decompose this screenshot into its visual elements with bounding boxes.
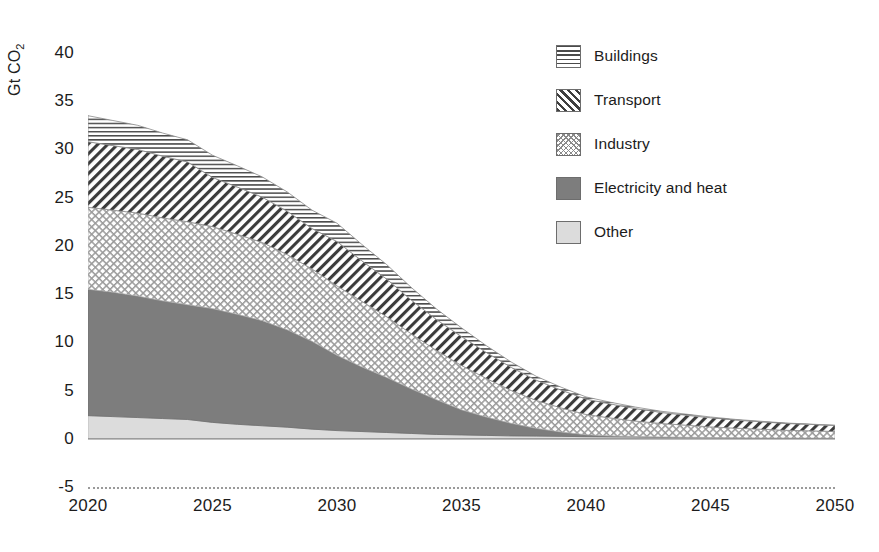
y-axis-tick-label: 30 xyxy=(30,139,74,159)
legend-item-industry[interactable]: Industry xyxy=(556,122,856,166)
legend-item-electricity-and-heat[interactable]: Electricity and heat xyxy=(556,166,856,210)
x-axis-tick-label: 2040 xyxy=(566,496,605,516)
axis-baseline-dotted xyxy=(88,487,835,489)
y-axis-tick-label: 20 xyxy=(30,236,74,256)
x-axis-tick-label: 2030 xyxy=(317,496,356,516)
y-axis-ticks: 4035302520151050-5 xyxy=(26,0,74,552)
legend-item-label: Other xyxy=(594,223,633,241)
y-axis-title: Gt CO2 xyxy=(6,43,26,96)
y-axis-tick-label: 15 xyxy=(30,284,74,304)
x-axis-tick-label: 2025 xyxy=(193,496,232,516)
legend-swatch-icon xyxy=(556,221,581,244)
y-axis-title-subscript: 2 xyxy=(14,43,26,49)
legend-item-label: Transport xyxy=(594,91,661,109)
x-axis-tick-label: 2035 xyxy=(442,496,481,516)
x-axis-tick-label: 2045 xyxy=(691,496,730,516)
y-axis-tick-label: 0 xyxy=(30,429,74,449)
y-axis-tick-label: 5 xyxy=(30,381,74,401)
legend-item-label: Electricity and heat xyxy=(594,179,727,197)
y-axis-tick-label: 40 xyxy=(30,43,74,63)
legend-swatch-icon xyxy=(556,45,581,68)
legend-swatch-icon xyxy=(556,89,581,112)
legend-item-transport[interactable]: Transport xyxy=(556,78,856,122)
emissions-stacked-area-chart: Gt CO2 4035302520151050-5 20202025203020… xyxy=(0,0,879,552)
x-axis-tick-label: 2020 xyxy=(68,496,107,516)
y-axis-title-text: Gt CO xyxy=(6,50,23,96)
y-axis-tick-label: 25 xyxy=(30,188,74,208)
legend-item-buildings[interactable]: Buildings xyxy=(556,34,856,78)
y-axis-tick-label: -5 xyxy=(30,477,74,497)
legend-swatch-icon xyxy=(556,177,581,200)
legend-item-other[interactable]: Other xyxy=(556,210,856,254)
y-axis-tick-label: 35 xyxy=(30,91,74,111)
chart-legend: BuildingsTransportIndustryElectricity an… xyxy=(556,34,856,254)
legend-swatch-icon xyxy=(556,133,581,156)
legend-item-label: Industry xyxy=(594,135,650,153)
y-axis-tick-label: 10 xyxy=(30,332,74,352)
x-axis-tick-label: 2050 xyxy=(815,496,854,516)
legend-item-label: Buildings xyxy=(594,47,658,65)
